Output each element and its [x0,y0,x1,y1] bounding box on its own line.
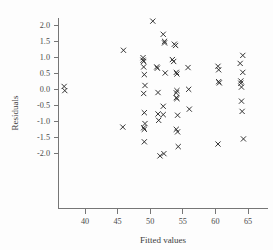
data-point [142,121,147,126]
data-point [62,88,67,93]
x-axis-title: Fitted values [140,235,187,245]
data-point [142,72,147,77]
x-tick-label: 45 [114,217,122,226]
data-point [173,43,178,48]
data-point [215,141,220,146]
data-point [141,91,146,96]
y-tick-label: 1.5 [40,37,50,46]
data-point [161,32,166,37]
data-point [171,59,176,64]
data-point [156,118,161,123]
y-axis-ticks: -2.0-1.5-1.0-0.50.00.51.01.52.0 [37,21,58,158]
data-point [186,87,191,92]
x-tick-label: 55 [179,217,187,226]
x-tick-label: 50 [146,217,154,226]
data-point [155,90,160,95]
x-tick-label: 40 [81,217,89,226]
data-point [176,144,181,149]
axes-group [58,18,268,209]
data-point [161,104,166,109]
data-point [239,99,244,104]
chart-canvas: 404550556065 -2.0-1.5-1.0-0.50.00.51.01.… [0,0,273,250]
y-tick-label: 0.5 [40,69,50,78]
y-tick-label: -2.0 [37,149,50,158]
y-tick-label: -1.0 [37,117,50,126]
data-point [187,107,192,112]
data-point [142,83,147,88]
data-point [150,19,155,24]
y-tick-label: 2.0 [40,21,50,30]
data-point [175,113,180,118]
data-point [163,70,168,75]
data-point [239,84,244,89]
data-point [216,67,221,72]
x-axis-ticks: 404550556065 [81,209,252,227]
y-axis-title: Residuals [10,95,20,130]
y-tick-label: -1.5 [37,133,50,142]
y-tick-label: 1.0 [40,53,50,62]
data-point [240,109,245,114]
data-point [142,110,147,115]
y-tick-label: 0.0 [40,85,50,94]
data-point [185,65,190,70]
scatter-plot-figure: 404550556065 -2.0-1.5-1.0-0.50.00.51.01.… [0,0,273,250]
data-point [240,53,245,58]
data-point [241,136,246,141]
data-point [121,48,126,53]
data-point [142,139,147,144]
data-point [155,111,160,116]
x-tick-label: 60 [211,217,219,226]
data-points-group [62,19,247,159]
y-tick-label: -0.5 [37,101,50,110]
data-point [238,61,243,66]
data-point [120,124,125,129]
data-point [161,112,166,117]
x-tick-label: 65 [244,217,252,226]
data-point [141,64,146,69]
data-point [240,70,245,75]
